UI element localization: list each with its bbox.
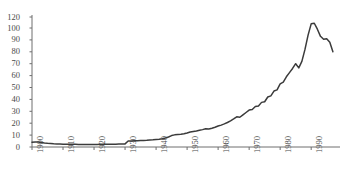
plot-area (0, 0, 342, 185)
data-series-line (32, 23, 333, 144)
axis-lines (32, 15, 340, 147)
chart-root: 0102030405060708090100120 19001910192019… (0, 0, 342, 185)
